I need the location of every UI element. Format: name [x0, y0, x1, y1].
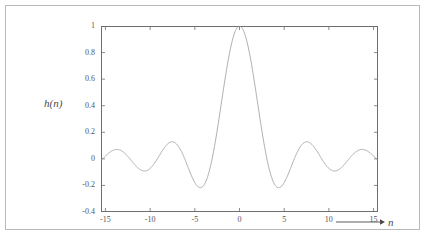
y-tick-label: 0 [61, 155, 95, 163]
tick-marks-group [101, 26, 378, 212]
axes-box [102, 27, 378, 212]
x-axis-title-group: n [336, 216, 394, 228]
y-tick-label: 1 [61, 22, 95, 30]
x-tick-label: -5 [180, 216, 210, 224]
y-tick-label: -0.4 [61, 208, 95, 216]
y-tick-label: 0.2 [61, 128, 95, 136]
y-tick-label: 0.6 [61, 75, 95, 83]
y-axis-title: h(n) [44, 97, 62, 109]
x-tick-label: -10 [135, 216, 165, 224]
x-axis-title: n [388, 216, 394, 228]
y-tick-label: 0.4 [61, 102, 95, 110]
x-tick-label: 0 [225, 216, 255, 224]
x-tick-label: 5 [269, 216, 299, 224]
x-tick-label: -15 [90, 216, 120, 224]
y-tick-label: 0.8 [61, 49, 95, 57]
right-arrow-icon [336, 217, 386, 227]
series-line-h-of-n [101, 26, 378, 188]
plot-svg [101, 26, 378, 212]
y-tick-label: -0.2 [61, 181, 95, 189]
plot-area [101, 26, 378, 212]
figure-root: -0.4-0.200.20.40.60.81 -15-10-5051015 h(… [0, 0, 428, 237]
figure-outer-frame: -0.4-0.200.20.40.60.81 -15-10-5051015 h(… [5, 5, 420, 230]
